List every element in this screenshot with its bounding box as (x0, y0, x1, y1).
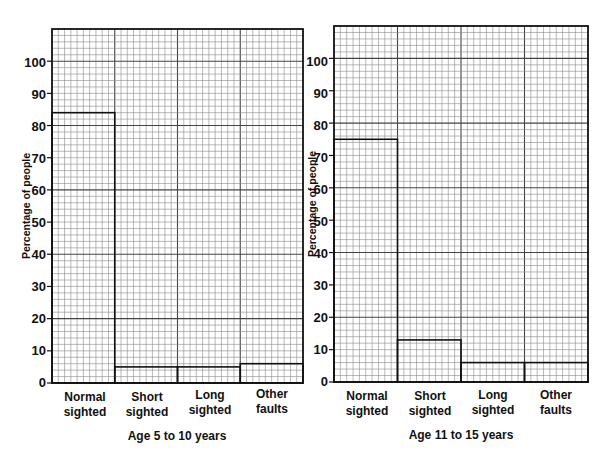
y-tick-label: 90 (300, 87, 328, 101)
y-tick-label: 30 (300, 279, 328, 293)
grid (334, 26, 588, 382)
y-tick-label: 10 (300, 343, 328, 357)
y-tick-label: 20 (300, 311, 328, 325)
y-tick-label: 40 (300, 247, 328, 261)
chart-subtitle: Age 11 to 15 years (336, 428, 586, 442)
x-category-label: Shortsighted (399, 389, 461, 419)
y-tick-label: 80 (300, 119, 328, 133)
x-category-label: Otherfaults (525, 388, 587, 418)
y-tick-label: 70 (300, 151, 328, 165)
x-category-label: Longsighted (462, 388, 524, 418)
y-tick-label: 60 (300, 183, 328, 197)
x-category-label: Normalsighted (336, 389, 398, 419)
y-tick-label: 100 (300, 55, 328, 69)
y-tick-label: 0 (300, 375, 328, 389)
y-tick-label: 50 (300, 215, 328, 229)
chart-age-11-15: Percentage of people 0 10 20 30 40 50 60… (0, 0, 608, 464)
